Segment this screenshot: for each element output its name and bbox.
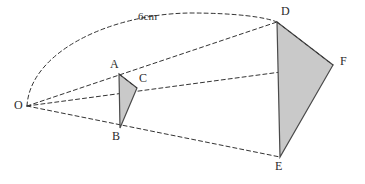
vertex-label-B: B (112, 130, 120, 142)
vertex-label-E: E (275, 160, 282, 172)
ray-O-A-D (27, 22, 277, 106)
vertex-label-O: O (14, 99, 23, 111)
vertex-label-D: D (281, 5, 290, 17)
vertex-label-A: A (110, 58, 119, 70)
vertex-label-C: C (139, 72, 147, 84)
measure-label-6cm: 6cm (138, 11, 157, 22)
triangle-ABC (119, 74, 137, 128)
geometry-figure (0, 0, 365, 184)
diagram-canvas: O A B C D E F 6cm (0, 0, 365, 184)
arc-measure-6cm (27, 13, 277, 106)
ray-O-B-E (27, 106, 280, 157)
vertex-label-F: F (340, 55, 347, 67)
triangle-DEF (277, 22, 333, 157)
